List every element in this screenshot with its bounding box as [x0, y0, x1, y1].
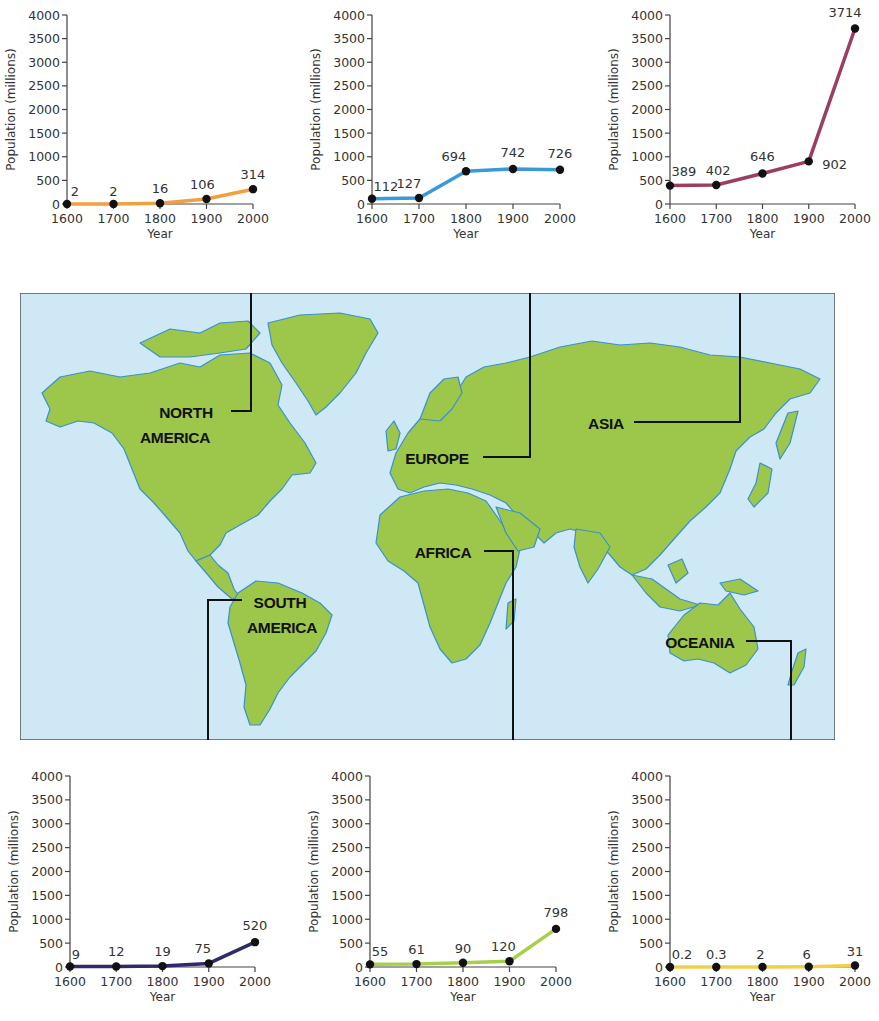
y-tick-label: 500 — [639, 936, 663, 951]
data-point — [758, 963, 766, 971]
label-south-america-line2: AMERICA — [247, 619, 317, 636]
data-value-label: 0.2 — [672, 947, 693, 962]
x-axis-title: Year — [749, 990, 775, 1004]
label-oceania: OCEANIA — [665, 634, 734, 651]
y-tick-label: 0 — [655, 960, 663, 975]
y-tick-label: 3500 — [631, 792, 663, 807]
data-value-label: 31 — [847, 944, 864, 959]
x-tick-label: 2000 — [839, 974, 871, 989]
y-tick-label: 2500 — [631, 840, 663, 855]
y-tick-label: 2000 — [631, 864, 663, 879]
data-value-label: 0.3 — [706, 947, 727, 962]
data-value-label: 2 — [756, 947, 764, 962]
y-axis-title: Population (millions) — [607, 810, 621, 932]
label-africa: AFRICA — [415, 544, 472, 561]
label-asia: ASIA — [588, 415, 624, 432]
data-value-label: 6 — [803, 947, 811, 962]
y-tick-label: 3000 — [631, 816, 663, 831]
data-point — [666, 963, 674, 971]
data-point — [712, 963, 720, 971]
world-map: NORTH AMERICA EUROPE ASIA AFRICA SOUTH A… — [20, 293, 835, 740]
label-south-america-line1: SOUTH — [254, 594, 307, 611]
label-europe: EUROPE — [405, 450, 469, 467]
data-point — [851, 961, 859, 969]
y-axis: 05001000150020002500300035004000 — [631, 769, 670, 975]
label-north-america-line2: AMERICA — [140, 429, 210, 446]
y-tick-label: 4000 — [631, 769, 663, 784]
x-tick-label: 1700 — [700, 974, 732, 989]
x-tick-label: 1900 — [793, 974, 825, 989]
y-tick-label: 1500 — [631, 888, 663, 903]
x-tick-label: 1800 — [747, 974, 779, 989]
x-tick-label: 1600 — [654, 974, 686, 989]
data-point — [805, 963, 813, 971]
label-north-america-line1: NORTH — [159, 404, 213, 421]
y-tick-label: 1000 — [631, 912, 663, 927]
